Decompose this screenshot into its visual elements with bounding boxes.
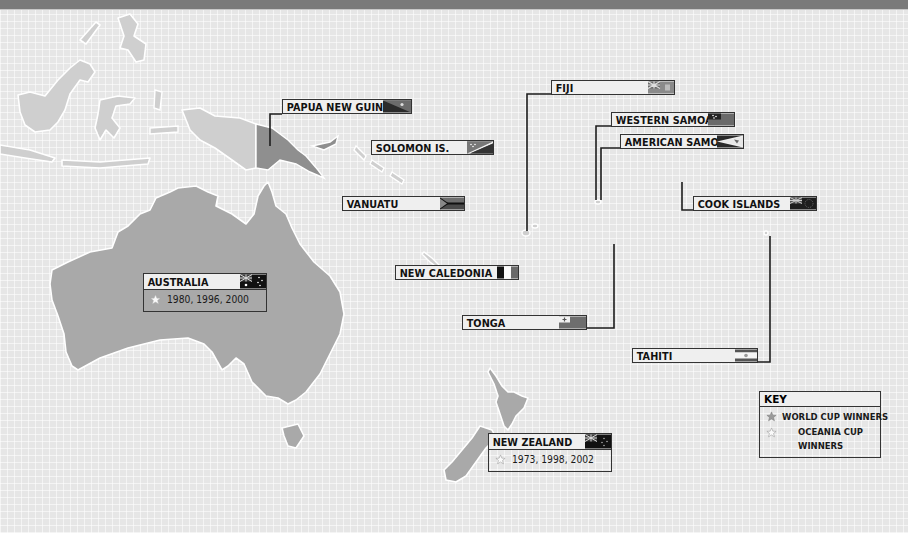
label-vanuatu: VANUATU xyxy=(342,196,465,211)
card-row: 1980, 1996, 2000 xyxy=(144,290,266,309)
western-samoa-leader xyxy=(596,126,611,200)
fiji-leader xyxy=(527,94,551,231)
label-tonga: TONGA xyxy=(462,315,587,330)
label-papua-new-guinea: PAPUA NEW GUINEA xyxy=(282,99,412,114)
label-tahiti: TAHITI xyxy=(632,348,758,363)
label-western-samoa: WESTERN SAMOA xyxy=(611,112,735,127)
white-star-icon xyxy=(495,454,506,465)
white-star-icon xyxy=(150,294,161,305)
new-zealand-north-island xyxy=(488,368,528,430)
key-item-oceania-cup: OCEANIA CUP WINNERS xyxy=(760,425,880,457)
borneo xyxy=(18,60,95,132)
country-name: FIJI xyxy=(552,82,573,94)
samoa-land xyxy=(595,200,601,204)
tahiti-leader xyxy=(758,236,770,362)
tonga-leader xyxy=(587,244,614,328)
oceania-map: PAPUA NEW GUINEA SOLOMON IS. VANUATU FIJ… xyxy=(0,0,908,533)
label-cook-islands: COOK ISLANDS xyxy=(693,196,817,211)
seram xyxy=(150,126,178,134)
label-new-caledonia: NEW CALEDONIA xyxy=(395,265,519,280)
cook-islands-flag-icon xyxy=(790,197,816,210)
key-title: KEY xyxy=(760,392,880,407)
country-name: AUSTRALIA xyxy=(144,276,208,288)
key-item-world-cup: WORLD CUP WINNERS xyxy=(760,407,880,425)
lesser-sunda xyxy=(62,158,150,168)
papua-new-guinea-flag-icon xyxy=(383,100,411,113)
oceania-cup-years: 1973, 1998, 2002 xyxy=(512,454,594,465)
american-samoa-flag-icon xyxy=(717,135,743,148)
key-label: WORLD CUP WINNERS xyxy=(782,412,888,422)
cook-islands-leader xyxy=(682,182,693,210)
tahiti-flag-icon xyxy=(735,349,757,362)
card-australia: AUSTRALIA 1980, 1996, 2000 xyxy=(143,273,267,312)
label-american-samoa: AMERICAN SAMOA xyxy=(620,134,744,149)
new-zealand-flag-icon xyxy=(585,434,611,449)
oceania-cup-years: 1980, 1996, 2000 xyxy=(167,294,249,305)
papua-new-guinea-land xyxy=(256,124,324,178)
tonga-flag-icon xyxy=(559,316,586,329)
country-name: VANUATU xyxy=(343,198,398,210)
card-row: 1973, 1998, 2002 xyxy=(489,450,611,469)
sulawesi xyxy=(95,96,135,140)
country-name: TAHITI xyxy=(633,350,672,362)
map-key: KEY WORLD CUP WINNERS OCEANIA CUP WINNER… xyxy=(759,391,881,458)
american-samoa-leader xyxy=(601,148,620,200)
label-solomon-islands: SOLOMON IS. xyxy=(371,140,494,155)
new-britain xyxy=(312,136,338,150)
fiji-land xyxy=(522,230,530,236)
country-name: PAPUA NEW GUINEA xyxy=(283,101,398,113)
country-name: WESTERN SAMOA xyxy=(612,114,713,126)
key-label-line1: OCEANIA CUP xyxy=(798,427,863,437)
fiji-flag-icon xyxy=(648,81,674,94)
grey-star-icon xyxy=(766,411,777,422)
fiji-islet xyxy=(532,224,538,228)
new-caledonia-flag-icon xyxy=(497,266,518,279)
palawan xyxy=(80,22,100,44)
country-name: NEW ZEALAND xyxy=(489,436,572,448)
west-papua xyxy=(182,108,256,170)
country-name: TONGA xyxy=(463,317,505,329)
australia-flag-icon xyxy=(240,274,266,289)
java xyxy=(0,145,55,162)
card-header: AUSTRALIA xyxy=(144,274,266,290)
country-name: NEW CALEDONIA xyxy=(396,267,492,279)
philippines xyxy=(118,14,146,62)
cook-islands-land xyxy=(764,231,768,235)
solomon-islands-flag-icon xyxy=(467,141,493,154)
label-fiji: FIJI xyxy=(551,80,675,95)
tasmania xyxy=(282,424,304,448)
country-name: SOLOMON IS. xyxy=(372,142,449,154)
card-header: NEW ZEALAND xyxy=(489,434,611,450)
samoa-flag-icon xyxy=(708,113,734,126)
country-name: COOK ISLANDS xyxy=(694,198,780,210)
card-new-zealand: NEW ZEALAND 1973, 1998, 2002 xyxy=(488,433,612,472)
country-name: AMERICAN SAMOA xyxy=(621,136,726,148)
key-label-line2: WINNERS xyxy=(798,441,843,451)
vanuatu-flag-icon xyxy=(440,197,464,210)
moluccas xyxy=(154,90,162,110)
white-star-icon xyxy=(766,427,777,438)
